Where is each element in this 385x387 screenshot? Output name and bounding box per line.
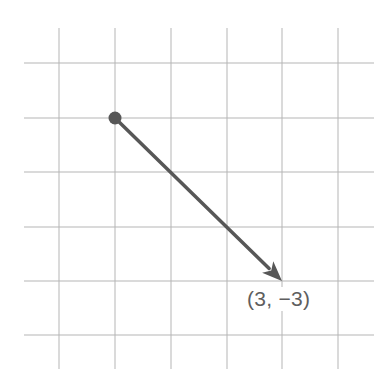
vector-shaft <box>115 118 269 268</box>
vector-component-label: (3, −3) <box>246 287 311 311</box>
vector-origin-dot <box>109 112 122 125</box>
vector-arrow <box>109 112 283 282</box>
vector-diagram <box>0 0 385 387</box>
